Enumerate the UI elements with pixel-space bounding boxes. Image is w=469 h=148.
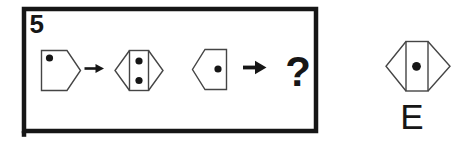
hexagon-left-point bbox=[115, 51, 130, 91]
arrow-head bbox=[255, 61, 267, 74]
transform-arrow-icon bbox=[85, 64, 105, 73]
transform-arrow-icon bbox=[243, 61, 267, 74]
query-pentagon-left bbox=[193, 50, 227, 90]
dot bbox=[214, 65, 221, 72]
arrow-head bbox=[96, 64, 105, 73]
question-number: 5 bbox=[30, 9, 44, 39]
example-pentagon-right bbox=[42, 51, 81, 91]
hexagon-right-point bbox=[149, 51, 164, 91]
answer-hexagon-one-dot bbox=[386, 42, 450, 92]
hexagon-left-point bbox=[386, 42, 406, 92]
puzzle-screenshot: 5 bbox=[0, 0, 469, 148]
puzzle-figure: 5 bbox=[0, 0, 469, 148]
question-box: 5 bbox=[24, 9, 316, 137]
question-frame bbox=[24, 9, 316, 131]
dot bbox=[135, 77, 142, 84]
dot bbox=[412, 62, 421, 71]
dot bbox=[135, 57, 142, 64]
hexagon-right-point bbox=[428, 42, 450, 92]
dot bbox=[46, 54, 53, 61]
example-hexagon-two-dots bbox=[115, 51, 163, 91]
hexagon-center-column bbox=[130, 51, 149, 91]
answer-label: E bbox=[400, 97, 423, 136]
question-mark: ? bbox=[285, 48, 311, 95]
answer-option-e: E bbox=[386, 42, 450, 136]
